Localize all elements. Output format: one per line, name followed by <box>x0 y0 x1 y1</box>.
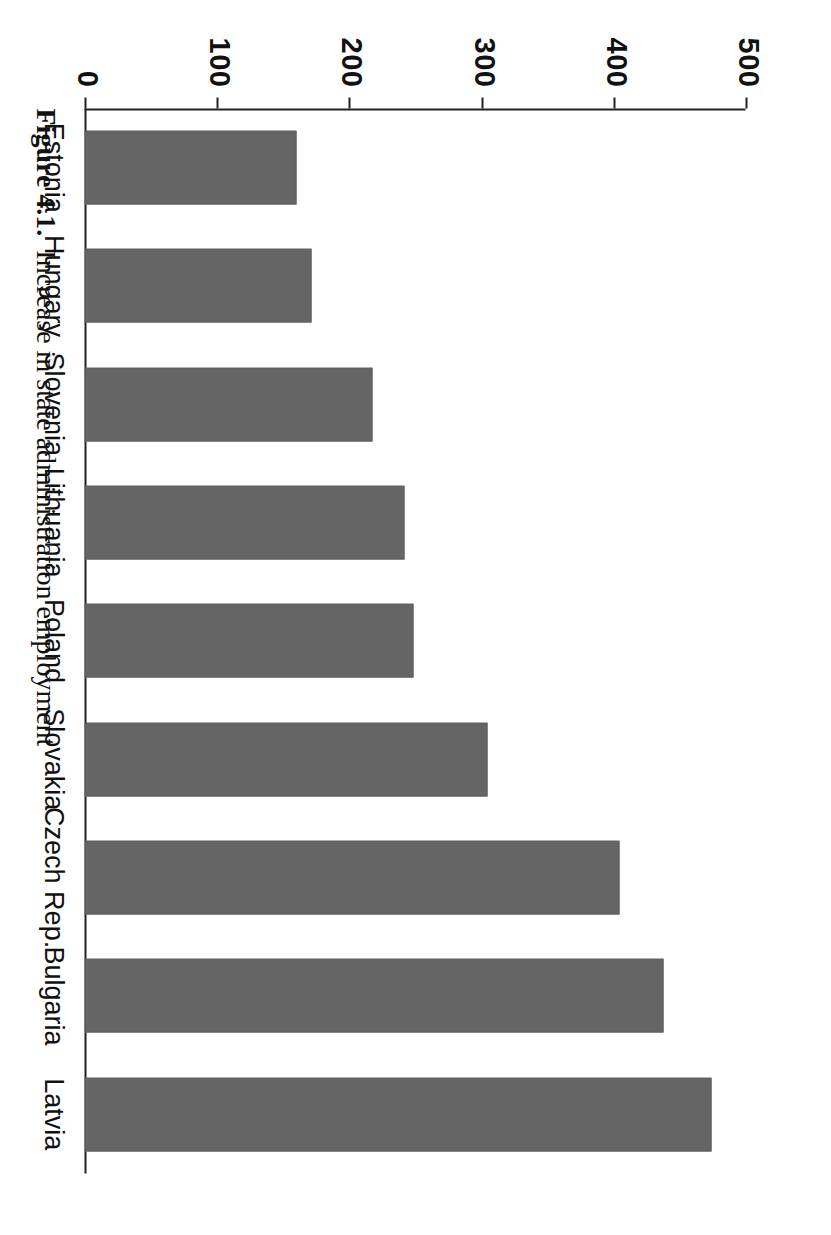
value-axis-tick-label: 200 <box>335 37 368 87</box>
bar[interactable] <box>84 722 487 796</box>
value-axis-tick: 300 <box>481 97 483 108</box>
category-axis-label: Bulgaria <box>37 946 68 1045</box>
bar-series: EstoniaHungarySloveniaLithuaniaPolandSlo… <box>84 108 745 1173</box>
bar-chart-plot-area: 0100200300400500 EstoniaHungarySloveniaL… <box>84 108 745 1173</box>
value-axis-tick-label: 100 <box>202 37 235 87</box>
figure-caption-text: Increase in state administration employm… <box>30 250 61 746</box>
bar-slot: Czech Rep. <box>84 818 745 936</box>
figure: 0100200300400500 EstoniaHungarySloveniaL… <box>0 0 831 1235</box>
bar-slot: Poland <box>84 581 745 699</box>
value-axis-tick-label: 400 <box>599 37 632 87</box>
category-axis-label: Latvia <box>37 1078 68 1150</box>
bar-slot: Slovenia <box>84 345 745 463</box>
value-axis-tick: 0 <box>84 97 86 108</box>
bar[interactable] <box>84 1077 711 1151</box>
value-axis-tick: 400 <box>613 97 615 108</box>
value-axis-tick: 500 <box>745 97 747 108</box>
value-axis-tick: 100 <box>216 97 218 108</box>
value-axis-tick-label: 0 <box>70 70 103 87</box>
bar[interactable] <box>84 958 663 1032</box>
bar[interactable] <box>84 485 404 559</box>
bar[interactable] <box>84 130 296 204</box>
bar-slot: Slovakia <box>84 700 745 818</box>
rotated-figure-container: 0100200300400500 EstoniaHungarySloveniaL… <box>0 0 831 1235</box>
value-axis-tick-label: 300 <box>467 37 500 87</box>
bar[interactable] <box>84 367 372 441</box>
category-axis-label: Czech Rep. <box>37 807 68 948</box>
bar-slot: Estonia <box>84 108 745 226</box>
bar-slot: Lithuania <box>84 463 745 581</box>
bar[interactable] <box>84 603 413 677</box>
bar-slot: Bulgaria <box>84 936 745 1054</box>
bar-slot: Latvia <box>84 1055 745 1173</box>
bar[interactable] <box>84 840 619 914</box>
bar[interactable] <box>84 248 311 322</box>
value-axis-tick-label: 500 <box>731 37 764 87</box>
bar-slot: Hungary <box>84 226 745 344</box>
figure-caption-number: Figure 4.1. <box>30 108 61 236</box>
figure-caption: Figure 4.1.Increase in state administrat… <box>29 108 61 746</box>
value-axis-tick: 200 <box>348 97 350 108</box>
